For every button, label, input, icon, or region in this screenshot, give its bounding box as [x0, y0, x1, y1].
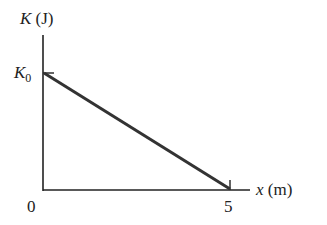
k0-label: K0 — [14, 64, 31, 84]
kinetic-energy-line — [44, 73, 230, 189]
x-axis-label: x (m) — [256, 181, 292, 198]
k0-main: K — [14, 63, 25, 82]
x-tick-5-label: 5 — [224, 198, 233, 215]
x-axis-var: x — [256, 180, 264, 199]
y-axis-label: K (J) — [20, 10, 54, 27]
y-axis-var: K — [20, 9, 31, 28]
x-axis-unit: (m) — [264, 180, 293, 199]
k0-sub: 0 — [25, 71, 31, 85]
y-axis-unit: (J) — [31, 9, 53, 28]
origin-label: 0 — [27, 198, 36, 215]
